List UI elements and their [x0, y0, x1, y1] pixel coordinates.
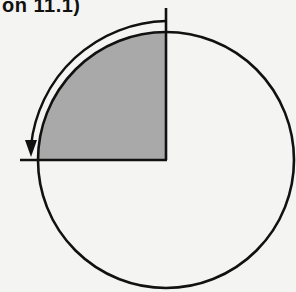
arrowhead-icon	[25, 140, 37, 157]
circle-sector-diagram	[0, 0, 296, 292]
shaded-sector	[38, 32, 166, 160]
